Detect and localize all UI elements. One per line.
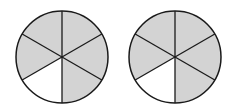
fraction-circle-2 <box>129 11 221 103</box>
fraction-circles-figure <box>0 0 227 109</box>
fraction-circle-1 <box>16 11 108 103</box>
